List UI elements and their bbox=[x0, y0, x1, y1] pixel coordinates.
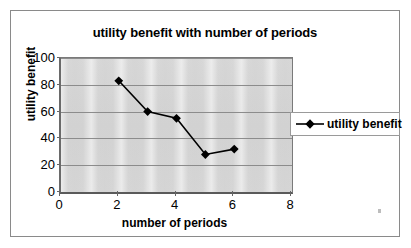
legend-label-utility-benefit: utility benefit bbox=[327, 117, 402, 131]
plot-area bbox=[59, 57, 293, 194]
y-tick-label-40: 40 bbox=[21, 131, 55, 144]
scan-artifact-speck bbox=[378, 209, 381, 213]
legend[interactable]: utility benefit bbox=[290, 112, 400, 136]
y-tick-label-60: 60 bbox=[21, 105, 55, 118]
legend-marker-icon bbox=[295, 117, 325, 131]
x-axis-title: number of periods bbox=[59, 216, 290, 230]
x-tick-label-2: 2 bbox=[102, 197, 132, 212]
y-axis-tick-labels: 020406080100 bbox=[19, 57, 55, 191]
x-tick-label-6: 6 bbox=[217, 197, 247, 212]
x-tick-mark-0 bbox=[59, 191, 60, 196]
data-series-utility-benefit bbox=[61, 58, 292, 192]
y-tick-label-80: 80 bbox=[21, 78, 55, 91]
data-point-6 bbox=[230, 145, 239, 154]
series-markers bbox=[114, 76, 238, 159]
chart-title: utility benefit with number of periods bbox=[11, 25, 399, 40]
x-tick-mark-6 bbox=[232, 191, 233, 196]
x-tick-label-0: 0 bbox=[44, 197, 74, 212]
x-tick-mark-2 bbox=[117, 191, 118, 196]
x-tick-mark-8 bbox=[290, 191, 291, 196]
y-tick-label-20: 20 bbox=[21, 158, 55, 171]
x-tick-label-4: 4 bbox=[160, 197, 190, 212]
x-tick-label-8: 8 bbox=[275, 197, 305, 212]
x-tick-mark-4 bbox=[175, 191, 176, 196]
y-tick-label-100: 100 bbox=[21, 51, 55, 64]
chart-frame: utility benefit with number of periods u… bbox=[10, 10, 400, 237]
